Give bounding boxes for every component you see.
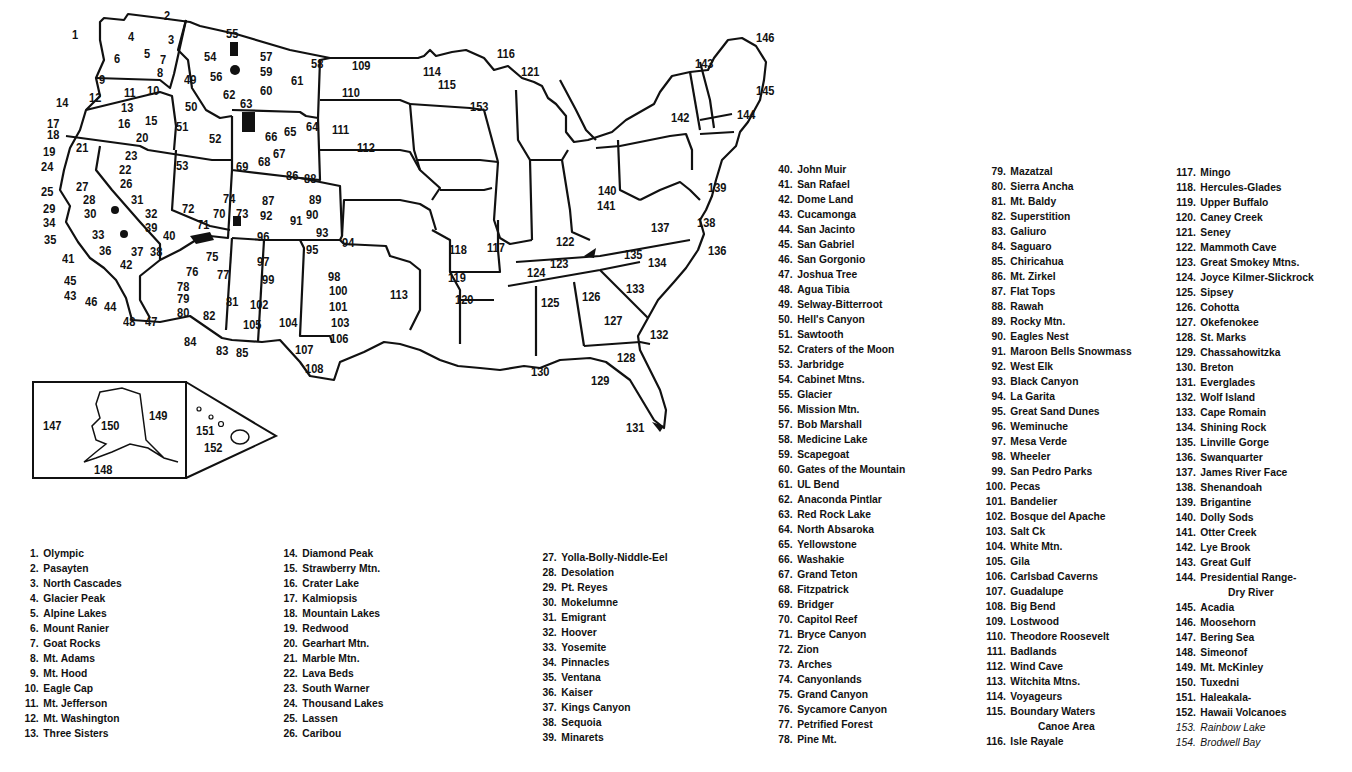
legend-item-number: 92.: [980, 359, 1006, 374]
legend-column: 27.Yolla-Bolly-Niddle-Eel28.Desolation29…: [542, 550, 678, 745]
legend-item: 40.John Muir: [776, 162, 905, 177]
legend-item-name: Grand Canyon: [797, 687, 868, 702]
map-marker-label: 2: [164, 9, 170, 22]
legend-item-number: 82.: [980, 209, 1006, 224]
legend-item-name: Flat Tops: [1010, 284, 1055, 299]
legend-item: Dry River: [1170, 585, 1314, 600]
map-marker-label: 84: [184, 335, 196, 348]
legend-item-name: Cabinet Mtns.: [797, 372, 864, 387]
legend-item-name: Kaiser: [561, 685, 592, 700]
map-marker-label: 122: [556, 235, 574, 248]
legend-item-name: Diamond Peak: [302, 546, 373, 561]
legend-item: 36.Kaiser: [542, 685, 668, 700]
legend-item: 141.Otter Creek: [1170, 525, 1314, 540]
legend-item: 75.Grand Canyon: [776, 687, 905, 702]
map-marker-label: 137: [651, 221, 669, 234]
legend-item-number: 146.: [1170, 615, 1196, 630]
legend-item-name: Maroon Bells Snowmass: [1010, 344, 1131, 359]
legend-item-number: 55.: [776, 387, 793, 402]
legend-item: 87.Flat Tops: [980, 284, 1132, 299]
legend-item: 124.Joyce Kilmer-Slickrock: [1170, 270, 1314, 285]
map-marker-label: 30: [84, 207, 96, 220]
legend-item-number: 64.: [776, 522, 793, 537]
legend-item-name: Shining Rock: [1200, 420, 1266, 435]
legend-item-name: Anaconda Pintlar: [797, 492, 882, 507]
map-marker-label: 90: [306, 208, 318, 221]
map-marker-label: 110: [342, 86, 360, 99]
legend-item-number: 61.: [776, 477, 793, 492]
map-marker-label: 57: [260, 50, 272, 63]
legend-item: 102.Bosque del Apache: [980, 509, 1132, 524]
map-marker-label: 6: [114, 52, 120, 65]
legend-item: 6.Mount Ranier: [24, 621, 122, 636]
map-marker-label: 58: [311, 57, 323, 70]
legend-item-name: Pt. Reyes: [561, 580, 607, 595]
legend-item-number: 67.: [776, 567, 793, 582]
legend-item-name: Emigrant: [561, 610, 606, 625]
legend-item-number: 38.: [542, 715, 557, 730]
map-marker-label: 138: [697, 216, 715, 229]
legend-item: 49.Selway-Bitterroot: [776, 297, 905, 312]
map-marker-label: 42: [120, 258, 132, 271]
map-marker-label: 39: [145, 221, 157, 234]
legend-item-number: 118.: [1170, 180, 1196, 195]
map-marker-label: 59: [260, 65, 272, 78]
legend-item-name: Gearhart Mtn.: [302, 636, 369, 651]
map-marker-label: 19: [43, 145, 55, 158]
legend-item: 84.Saguaro: [980, 239, 1132, 254]
legend-item: 133.Cape Romain: [1170, 405, 1314, 420]
legend-item-name: Carlsbad Caverns: [1010, 569, 1098, 584]
legend-item-number: 41.: [776, 177, 793, 192]
map-marker-label: 126: [582, 290, 600, 303]
legend-item-name: Sawtooth: [797, 327, 843, 342]
legend-item-number: 122.: [1170, 240, 1196, 255]
legend-item-number: 51.: [776, 327, 793, 342]
map-marker-label: 125: [541, 296, 559, 309]
map-marker-label: 18: [47, 128, 59, 141]
legend-item-number: 90.: [980, 329, 1006, 344]
map-marker-label: 79: [177, 292, 189, 305]
map-marker-label: 95: [306, 243, 318, 256]
legend-item-name: Great Smokey Mtns.: [1200, 255, 1299, 270]
legend-item-name: James River Face: [1200, 465, 1287, 480]
legend-item: 73.Arches: [776, 657, 905, 672]
legend-item: Canoe Area: [980, 719, 1132, 734]
map-marker-label: 60: [260, 84, 272, 97]
legend-item-name: Rawah: [1010, 299, 1043, 314]
map-marker-label: 130: [531, 365, 549, 378]
legend-item-number: [980, 719, 1006, 734]
legend-item: 3.North Cascades: [24, 576, 122, 591]
legend-item-name: Weminuche: [1010, 419, 1068, 434]
legend-item-name: Strawberry Mtn.: [302, 561, 380, 576]
legend-item: 48.Agua Tibia: [776, 282, 905, 297]
legend-item: 123.Great Smokey Mtns.: [1170, 255, 1314, 270]
legend-item-name: Sipsey: [1200, 285, 1233, 300]
map-marker-label: 25: [41, 185, 53, 198]
legend-item: 21.Marble Mtn.: [283, 651, 384, 666]
legend-item-number: 85.: [980, 254, 1006, 269]
legend-item: 64.North Absaroka: [776, 522, 905, 537]
legend-item-name: Joyce Kilmer-Slickrock: [1200, 270, 1313, 285]
map-marker-label: 91: [290, 214, 302, 227]
legend-item-name: Isle Rayale: [1010, 734, 1063, 749]
legend-item-name: Mt. Washington: [43, 711, 119, 726]
legend-column: 14.Diamond Peak15.Strawberry Mtn.16.Crat…: [283, 546, 392, 741]
map-marker-label: 16: [118, 117, 130, 130]
map-marker-label: 151: [196, 424, 214, 437]
legend-item: 92.West Elk: [980, 359, 1132, 374]
legend-item-name: Mt. Hood: [43, 666, 87, 681]
legend-item: 12.Mt. Washington: [24, 711, 122, 726]
legend-item-name: Big Bend: [1010, 599, 1055, 614]
legend-item: 17.Kalmiopsis: [283, 591, 384, 606]
legend-item-number: 130.: [1170, 360, 1196, 375]
legend-item: 18.Mountain Lakes: [283, 606, 384, 621]
legend-item-number: 153.: [1170, 720, 1196, 735]
legend-item-number: 93.: [980, 374, 1006, 389]
legend-item-name: Grand Teton: [797, 567, 857, 582]
legend-item-number: 125.: [1170, 285, 1196, 300]
legend-item: 71.Bryce Canyon: [776, 627, 905, 642]
legend-item-number: 72.: [776, 642, 793, 657]
legend-item-name: San Gorgonio: [797, 252, 865, 267]
legend-item-name: Medicine Lake: [797, 432, 867, 447]
map-marker-label: 96: [257, 230, 269, 243]
